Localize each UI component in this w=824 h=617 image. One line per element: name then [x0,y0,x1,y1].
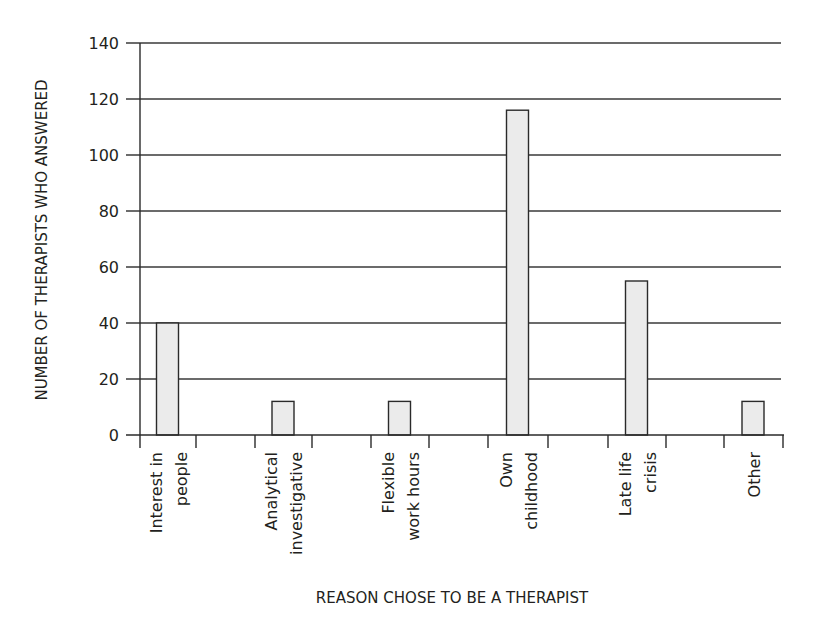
x-axis-title: REASON CHOSE TO BE A THERAPIST [316,589,589,607]
bar-other [742,401,764,435]
x-ticks [196,435,783,448]
y-tick-labels: 020406080100120140 [88,34,119,445]
x-tick-label: people [172,452,191,506]
x-tick-label: Flexible [379,452,398,514]
y-tick-label: 20 [99,370,119,389]
x-tick-label: Interest in [147,452,166,533]
y-axis-title: NUMBER OF THERAPISTS WHO ANSWERED [33,79,51,400]
x-tick-label: work hours [404,452,423,541]
x-tick-label: crisis [641,452,660,493]
x-tick-label: investigative [287,452,306,555]
x-tick-label: Analytical [262,452,281,531]
bar-own-childhood [507,110,529,435]
x-tick-label: childhood [522,452,541,530]
gridlines [126,43,781,379]
x-tick-label: Other [745,452,764,498]
bars [157,110,765,435]
bar-interest-in-people [157,323,179,435]
y-tick-label: 40 [99,314,119,333]
y-tick-label: 140 [88,34,119,53]
bar-flexible-work-hours [389,401,411,435]
y-tick-label: 100 [88,146,119,165]
y-tick-label: 0 [109,426,119,445]
x-tick-label: Late life [616,452,635,516]
x-tick-labels: Interest inpeopleAnalyticalinvestigative… [147,452,764,555]
bar-chart: 020406080100120140 Interest inpeopleAnal… [0,0,824,617]
bar-analytical-investigative [272,401,294,435]
bar-late-life-crisis [626,281,648,435]
x-tick-label: Own [497,452,516,488]
y-tick-label: 60 [99,258,119,277]
y-tick-label: 120 [88,90,119,109]
y-tick-label: 80 [99,202,119,221]
